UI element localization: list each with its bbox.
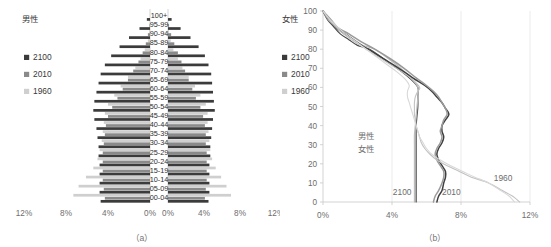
line-chart-svg: 女性21002010196001020304050607080901000%4%… xyxy=(280,0,551,247)
pyramid-bar-male-2100-10-14 xyxy=(100,182,150,185)
pyramid-bar-male-2010-10-14 xyxy=(103,179,150,182)
pyramid-xtick-left-12%: 12% xyxy=(16,209,32,218)
pyramid-bar-male-2100-25-29 xyxy=(99,154,150,157)
pyramid-bar-male-2100-60-64 xyxy=(96,91,150,94)
pyramid-bar-female-2010-60-64 xyxy=(168,88,192,91)
pyramid-bar-female-2010-20-24 xyxy=(168,161,207,164)
pyramid-bar-male-1960-55-59 xyxy=(114,94,150,97)
pyramid-bar-male-1960-10-14 xyxy=(86,176,150,179)
pyramid-bar-female-2100-20-24 xyxy=(168,164,209,167)
pyramid-bar-female-2100-70-74 xyxy=(168,73,211,76)
pyramid-bar-female-1960-35-39 xyxy=(168,130,209,133)
age-group-label-20-24: 20-24 xyxy=(150,157,169,166)
pyramid-bar-male-2010-40-44 xyxy=(106,124,150,127)
age-group-label-25-29: 25-29 xyxy=(150,148,169,157)
pyramid-bar-male-2100-20-24 xyxy=(100,164,150,167)
pyramid-bar-female-2010-75-79 xyxy=(168,61,182,64)
age-group-label-05-09: 05-09 xyxy=(150,184,169,193)
age-group-label-85-89: 85-89 xyxy=(150,38,169,47)
legend-swatch-female-2100 xyxy=(282,55,287,60)
legend-label-male-2010: 2010 xyxy=(33,69,52,79)
pyramid-bar-male-1960-40-44 xyxy=(104,121,150,124)
pyramid-bar-female-2100-80-84 xyxy=(168,54,205,57)
pyramid-bar-male-1960-15-19 xyxy=(93,167,150,170)
age-group-label-30-34: 30-34 xyxy=(150,138,169,147)
pyramid-xtick-right-0%: 0% xyxy=(162,209,174,218)
pyramid-bar-female-2100-85-89 xyxy=(168,45,199,48)
pyramid-xtick-left-4%: 4% xyxy=(102,209,114,218)
pyramid-bar-male-2010-45-49 xyxy=(108,115,150,118)
line-ytick-100: 100 xyxy=(303,7,317,16)
pyramid-bar-female-2100-65-69 xyxy=(168,82,212,85)
pyramid-xtick-right-12%: 12% xyxy=(268,209,280,218)
pyramid-xtick-left-8%: 8% xyxy=(60,209,72,218)
line-series-2100-female xyxy=(323,11,418,202)
pyramid-bar-male-1960-30-34 xyxy=(102,139,150,142)
pyramid-bar-male-1960-45-49 xyxy=(105,112,150,115)
pyramid-bar-female-2100-55-59 xyxy=(168,100,214,103)
line-ytick-90: 90 xyxy=(308,26,318,35)
pyramid-bar-female-1960-60-64 xyxy=(168,85,195,88)
pyramid-bar-female-1960-20-24 xyxy=(168,158,212,161)
panel-b-line-chart: 女性21002010196001020304050607080901000%4%… xyxy=(280,0,551,247)
pyramid-bar-male-2100-05-09 xyxy=(100,191,150,194)
pyramid-bar-male-1960-50-54 xyxy=(108,103,150,106)
pyramid-bar-female-1960-00-04 xyxy=(168,194,231,197)
pyramid-bar-male-2100-45-49 xyxy=(94,118,150,121)
pyramid-xtick-right-8%: 8% xyxy=(234,209,246,218)
pyramid-bar-male-2010-50-54 xyxy=(112,106,150,109)
pyramid-bar-male-2100-70-74 xyxy=(101,73,150,76)
pyramid-bar-female-2100-15-19 xyxy=(168,173,209,176)
pyramid-bar-male-1960-65-69 xyxy=(128,76,150,79)
pyramid-bar-female-2100-75-79 xyxy=(168,64,209,67)
pyramid-bar-male-2100-15-19 xyxy=(100,173,150,176)
legend-title-male: 男性 xyxy=(22,14,38,24)
pyramid-bar-male-2010-65-69 xyxy=(128,79,150,82)
pyramid-bar-female-2010-30-34 xyxy=(168,142,206,145)
pyramid-bar-male-1960-35-39 xyxy=(103,130,150,133)
pyramid-bar-male-2100-85-89 xyxy=(120,45,150,48)
line-ytick-0: 0 xyxy=(312,198,317,207)
age-group-label-60-64: 60-64 xyxy=(150,84,169,93)
pyramid-bar-female-1960-15-19 xyxy=(168,167,216,170)
pyramid-bar-male-2100-50-54 xyxy=(93,109,150,112)
pyramid-bar-female-2010-65-69 xyxy=(168,79,189,82)
line-xtick-4%: 4% xyxy=(386,211,398,220)
pyramid-bar-female-2010-70-74 xyxy=(168,70,185,73)
age-group-label-75-79: 75-79 xyxy=(150,57,169,66)
legend-swatch-male-2010 xyxy=(24,72,29,77)
caption-panel-a: （a） xyxy=(131,233,154,243)
line-ytick-10: 10 xyxy=(308,179,318,188)
age-group-label-00-04: 00-04 xyxy=(150,193,169,202)
pyramid-bar-female-2100-10-14 xyxy=(168,182,209,185)
age-group-label-95-99: 95-99 xyxy=(150,20,169,29)
curve-annotation-1960: 1960 xyxy=(494,173,513,183)
pyramid-bar-female-2010-50-54 xyxy=(168,106,200,109)
pyramid-bar-male-1960-00-04 xyxy=(73,194,150,197)
pyramid-bar-female-1960-50-54 xyxy=(168,103,206,106)
pyramid-xtick-left-0%: 0% xyxy=(144,209,156,218)
legend-label-male-2100: 2100 xyxy=(33,52,52,62)
pyramid-bar-male-2010-00-04 xyxy=(105,197,150,200)
pyramid-bar-female-2010-45-49 xyxy=(168,115,203,118)
figure-root: 00-0405-0910-1415-1920-2425-2930-3435-39… xyxy=(0,0,551,247)
pyramid-xtick-right-4%: 4% xyxy=(198,209,210,218)
caption-panel-b: （b） xyxy=(424,233,447,243)
pyramid-bar-male-1960-60-64 xyxy=(121,85,150,88)
pyramid-bar-female-2010-00-04 xyxy=(168,197,205,200)
curve-annotation-2100: 2100 xyxy=(393,187,412,197)
pyramid-chart-svg: 00-0405-0910-1415-1920-2425-2930-3435-39… xyxy=(0,0,280,247)
line-series-2100-male xyxy=(323,11,419,202)
pyramid-bar-male-2010-75-79 xyxy=(138,61,150,64)
age-group-label-10-14: 10-14 xyxy=(150,175,169,184)
pyramid-bar-female-2100-00-04 xyxy=(168,200,209,203)
pyramid-bar-female-2100-25-29 xyxy=(168,154,210,157)
legend-swatch-male-1960 xyxy=(24,89,29,94)
age-group-label-40-44: 40-44 xyxy=(150,120,169,129)
line-xtick-8%: 8% xyxy=(455,211,467,220)
line-ytick-40: 40 xyxy=(308,122,318,131)
pyramid-bar-female-2010-80-84 xyxy=(168,51,178,54)
line-ytick-20: 20 xyxy=(308,160,318,169)
pyramid-bar-female-2100-40-44 xyxy=(168,127,212,130)
age-group-label-65-69: 65-69 xyxy=(150,75,169,84)
